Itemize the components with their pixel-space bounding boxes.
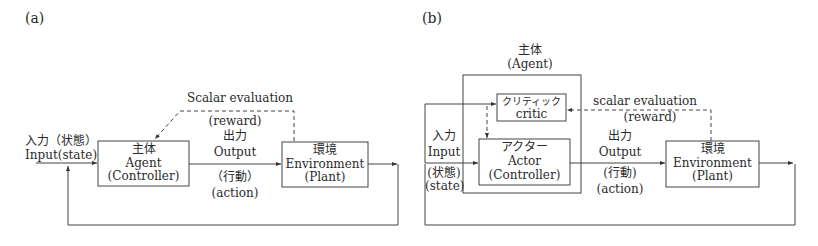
- environment-label-ja-b: 環境: [666, 143, 759, 156]
- environment-label-sub: (Plant): [282, 171, 368, 184]
- input-label-en-b: Input: [425, 146, 463, 159]
- output-label-en-sub: (action): [190, 187, 280, 200]
- environment-label-ja: 環境: [282, 144, 368, 157]
- agent-label-sub: (Controller): [98, 170, 189, 183]
- actor-label-en: Actor: [479, 155, 570, 168]
- output-label-en-sub-b: (action): [585, 183, 655, 196]
- evaluation-label-b: scalar evaluation: [590, 95, 700, 108]
- output-label-ja: 出力: [190, 130, 280, 143]
- input-label-ja-b: 入力: [425, 130, 463, 143]
- agent-group-label-ja: 主体: [500, 44, 560, 57]
- diagram-canvas: [0, 0, 818, 246]
- critic-label-en: critic: [497, 108, 566, 121]
- output-label-en-b: Output: [585, 146, 655, 159]
- panel-a-label: (a): [25, 10, 44, 26]
- environment-label-sub-b: (Plant): [666, 170, 759, 183]
- output-label-ja-sub: （行動）: [190, 171, 280, 184]
- actor-label-sub: (Controller): [479, 169, 570, 182]
- evaluation-label: Scalar evaluation: [180, 92, 300, 105]
- reward-label-b: (reward): [610, 111, 690, 124]
- output-label-ja-sub-b: (行動): [585, 167, 655, 180]
- actor-label-ja: アクター: [479, 141, 570, 154]
- input-label-en-sub-b: (state): [425, 180, 463, 193]
- output-label-ja-b: 出力: [585, 130, 655, 143]
- panel-b-label: (b): [422, 10, 442, 26]
- input-label-ja: 入力（状態）: [25, 135, 97, 148]
- agent-group-label-en: (Agent): [500, 58, 560, 71]
- agent-label-ja: 主体: [98, 143, 189, 156]
- reward-label: (reward): [180, 115, 290, 128]
- input-label-en: Input(state): [25, 149, 97, 162]
- output-label-en: Output: [190, 146, 280, 159]
